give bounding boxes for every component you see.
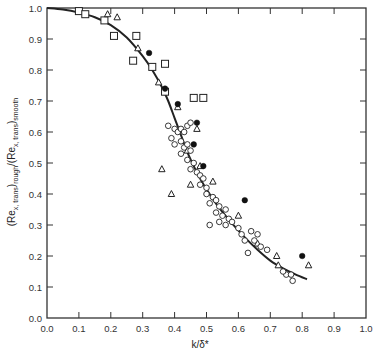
x-tick-label: 0.9 [327, 323, 340, 334]
open-circle-point [207, 201, 213, 207]
triangle-point [273, 253, 279, 259]
y-tick-label: 0.6 [29, 127, 42, 138]
open-circle-point [165, 123, 171, 129]
square-point [130, 57, 137, 64]
open-circle-point [185, 157, 191, 163]
filled-circle-point [146, 50, 152, 56]
open-circle-point [216, 219, 222, 225]
open-circle-point [188, 148, 194, 154]
open-circle-point [248, 228, 254, 234]
open-circle-point [255, 232, 261, 238]
open-circle-point [201, 176, 207, 182]
open-circle-point [181, 129, 187, 135]
filled-circle-point [162, 86, 168, 92]
y-tick-label: 0.9 [29, 34, 42, 45]
x-tick-label: 0.7 [264, 323, 277, 334]
plot-frame [47, 8, 366, 318]
open-circle-point [188, 166, 194, 172]
y-tick-label: 0.5 [29, 158, 42, 169]
plot-border [47, 8, 366, 318]
filled-circle-point [299, 253, 305, 259]
x-tick-label: 0.8 [296, 323, 309, 334]
y-tick-label: 0.3 [29, 220, 42, 231]
y-axis-ticks: 0.00.10.20.30.40.50.60.70.80.91.0 [29, 3, 366, 324]
x-tick-label: 1.0 [359, 323, 372, 334]
square-point [82, 11, 89, 18]
open-circle-point [213, 197, 219, 203]
y-tick-label: 0.4 [29, 189, 42, 200]
filled-circle-point [191, 142, 197, 148]
open-circle-point [242, 238, 248, 244]
triangle-point [159, 166, 165, 172]
y-tick-label: 0.8 [29, 65, 42, 76]
open-circle-point [280, 269, 286, 275]
y-label-sub3: x, trans [12, 124, 19, 147]
chart: 0.00.10.20.30.40.50.60.70.80.91.0 0.00.1… [0, 0, 378, 357]
square-point [190, 94, 197, 101]
open-circle-point [216, 204, 222, 210]
y-tick-label: 1.0 [29, 3, 42, 14]
open-circle-point [264, 247, 270, 253]
open-circle-point [239, 232, 245, 238]
open-circle-point [213, 210, 219, 216]
x-tick-label: 0.0 [40, 323, 53, 334]
triangle-point [168, 191, 174, 197]
filled-circle-point [175, 101, 181, 107]
open-circle-point [223, 207, 229, 213]
y-label-mid2: /(Re [6, 147, 17, 166]
data-points [75, 8, 311, 284]
x-axis-ticks: 0.00.10.20.30.40.50.60.70.80.91.0 [40, 8, 372, 334]
triangle-point [305, 262, 311, 268]
triangle-point [187, 181, 193, 187]
open-circle-point [197, 182, 203, 188]
x-tick-label: 0.6 [232, 323, 245, 334]
open-circle-point [185, 142, 191, 148]
filled-circle-point [201, 163, 207, 169]
y-tick-label: 0.2 [29, 251, 42, 262]
square-point [133, 32, 140, 39]
open-circle-point [204, 185, 210, 191]
open-circle-point [172, 142, 178, 148]
x-axis-title: k/δ* [191, 339, 208, 350]
x-tick-label: 0.3 [136, 323, 149, 334]
open-circle-point [245, 250, 251, 256]
square-point [200, 94, 207, 101]
open-circle-point [258, 244, 264, 250]
y-axis-title: (Rex, trans)rough/(Rex, trans)smooth [6, 98, 20, 227]
open-circle-point [191, 160, 197, 166]
open-circle-point [169, 135, 175, 141]
filled-circle-point [242, 197, 248, 203]
y-tick-label: 0.7 [29, 96, 42, 107]
open-circle-point [229, 219, 235, 225]
y-tick-label: 0.1 [29, 282, 42, 293]
x-tick-label: 0.5 [200, 323, 213, 334]
y-label-sub4: smooth [12, 98, 19, 121]
square-point [101, 17, 108, 24]
y-label-sub2: rough [12, 166, 20, 184]
triangle-point [210, 178, 216, 184]
open-circle-point [204, 191, 210, 197]
open-circle-point [288, 272, 294, 278]
open-circle-point [236, 225, 242, 231]
square-point [110, 32, 117, 39]
filled-circle-point [194, 120, 200, 126]
y-label-sub1: x, trans [12, 187, 19, 210]
x-tick-label: 0.1 [72, 323, 85, 334]
triangle-point [194, 125, 200, 131]
open-circle-point [290, 278, 296, 284]
open-circle-point [220, 213, 226, 219]
square-point [149, 63, 156, 70]
triangle-point [235, 212, 241, 218]
open-circle-point [207, 222, 213, 228]
open-circle-point [178, 151, 184, 157]
x-tick-label: 0.2 [104, 323, 117, 334]
x-tick-label: 0.4 [168, 323, 181, 334]
open-circle-point [188, 120, 194, 126]
triangle-point [155, 79, 161, 85]
y-tick-label: 0.0 [29, 313, 42, 324]
square-point [162, 60, 169, 67]
triangle-point [104, 11, 110, 17]
open-circle-point [223, 222, 229, 228]
y-label-prefix: (Re [6, 210, 17, 227]
open-circle-point [252, 238, 258, 244]
